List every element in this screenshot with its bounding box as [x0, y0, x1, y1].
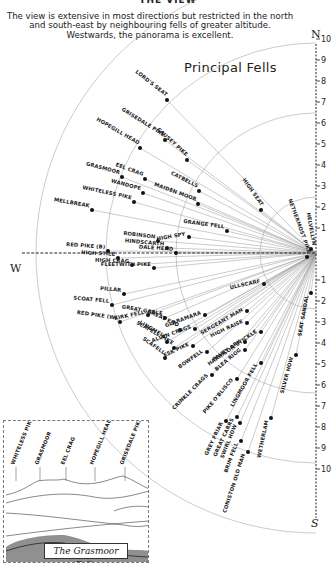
- north-tick-label: 2: [321, 203, 326, 212]
- fell-label: DALE HEAD: [139, 243, 174, 251]
- south-tick-label: 10: [321, 465, 331, 474]
- fell-dot: [205, 350, 209, 354]
- fell-dot: [196, 202, 200, 206]
- fell-dot: [118, 320, 122, 324]
- sketch-peak-label: GRASMOOR: [33, 431, 52, 466]
- south-tick-label: 5: [321, 360, 326, 369]
- fell-dot: [120, 175, 124, 179]
- sketch-peak-labels: WHITELESS PIKEGRASMOOREEL CRAGHOPEGILL H…: [9, 421, 142, 481]
- fell-dot: [294, 353, 298, 357]
- fell-label: MELLBREAK: [54, 196, 92, 208]
- sketch-peak-label: HOPEGILL HEAD: [88, 421, 112, 465]
- sight-line: [167, 100, 316, 253]
- fell-label: BOWFELL: [177, 348, 205, 370]
- fell-label: HIGH STILE: [81, 249, 116, 257]
- south-tick-label: 2: [321, 297, 326, 306]
- south-tick-label: 6: [321, 381, 326, 390]
- fell-dot: [193, 327, 197, 331]
- north-tick-label: 7: [321, 98, 326, 107]
- north-label: N: [311, 28, 321, 41]
- north-tick-label: 1: [321, 224, 326, 233]
- fell-label: HIGH SEAT: [241, 177, 265, 207]
- south-tick-label: 9: [321, 444, 326, 453]
- fell-label: LINGMOOR FELL: [229, 362, 259, 408]
- fell-label: FLEETWITH PIKE: [101, 261, 152, 267]
- north-tick-label: 9: [321, 56, 326, 65]
- fell-dot: [225, 229, 229, 233]
- fell-label: LORD'S SEAT: [134, 69, 169, 98]
- fell-dot: [152, 266, 156, 270]
- fell-dot: [262, 282, 266, 286]
- fell-dot: [239, 439, 243, 443]
- fell-dot: [187, 235, 191, 239]
- sketch-peak-label: WHITELESS PIKE: [9, 421, 34, 465]
- fell-dot: [110, 303, 114, 307]
- fell-label: SEAT SANDAL: [296, 294, 309, 337]
- fell-dot: [191, 344, 195, 348]
- south-tick-label: 4: [321, 339, 326, 348]
- fell-dot: [269, 416, 273, 420]
- south-tick-label: 7: [321, 402, 326, 411]
- fell-dot: [245, 321, 249, 325]
- north-tick-label: 5: [321, 140, 326, 149]
- north-tick-label: 3: [321, 182, 326, 191]
- fell-label: ULLSCARF: [229, 278, 261, 290]
- fell-label: HOPEGILL HEAD: [96, 116, 142, 146]
- fell-label: CRINKLE CRAGS: [171, 372, 210, 411]
- fell-dot: [197, 189, 201, 193]
- north-tick-label: 8: [321, 77, 326, 86]
- fell-dot: [141, 191, 145, 195]
- fell-dot: [143, 177, 147, 181]
- north-tick-label: 4: [321, 161, 326, 170]
- fell-dot: [243, 348, 247, 352]
- sight-lines: [92, 100, 316, 452]
- fell-dot: [210, 373, 214, 377]
- fell-dot: [305, 255, 309, 259]
- fell-dot: [185, 158, 189, 162]
- fell-label: WETHERLAM: [256, 419, 270, 458]
- fell-dot: [245, 309, 249, 313]
- fell-dot: [165, 98, 169, 102]
- panorama-sketch: WHITELESS PIKEGRASMOOREEL CRAGHOPEGILL H…: [4, 421, 149, 563]
- sketch-caption: The Grasmoor Fells: [44, 543, 128, 559]
- north-tick-label: 10: [321, 35, 331, 44]
- sketch-peak-label: GRISEDALE PIKE: [118, 421, 142, 465]
- south-tick-label: 8: [321, 423, 326, 432]
- fell-dot: [132, 200, 136, 204]
- south-tick-label: 1: [321, 276, 326, 285]
- fell-dot: [90, 208, 94, 212]
- sight-line: [271, 253, 316, 418]
- fell-label: RED PIKE (W): [77, 309, 118, 321]
- fell-dot: [309, 291, 313, 295]
- west-label: W: [10, 262, 22, 275]
- fell-label: PIKE O'BLISCO: [201, 376, 234, 414]
- south-tick-label: 3: [321, 318, 326, 327]
- fell-dot: [259, 361, 263, 365]
- north-tick-label: 6: [321, 119, 326, 128]
- fell-label: WANDOPE: [110, 177, 142, 191]
- fell-dot: [235, 415, 239, 419]
- fell-dot: [238, 421, 242, 425]
- fell-dot: [174, 251, 178, 255]
- fell-label: SCOAT FELL: [73, 295, 110, 304]
- fell-label: SILVER HOW: [279, 356, 295, 394]
- fell-dot: [203, 313, 207, 317]
- fell-label: PILLAR: [100, 285, 122, 293]
- fell-dot: [246, 450, 250, 454]
- fell-label: CATBELLS: [170, 170, 200, 189]
- sketch-peak-label: EEL CRAG: [59, 436, 76, 466]
- fell-dot: [235, 377, 239, 381]
- south-label: S: [311, 517, 319, 530]
- fell-dot: [138, 146, 142, 150]
- fell-dot: [259, 208, 263, 212]
- fell-label: CAUSEY PIKE: [156, 126, 190, 157]
- fell-dot: [259, 330, 263, 334]
- fell-dot: [122, 292, 126, 296]
- grasmoor-fells-sketch: WHITELESS PIKEGRASMOOREEL CRAGHOPEGILL H…: [3, 420, 149, 563]
